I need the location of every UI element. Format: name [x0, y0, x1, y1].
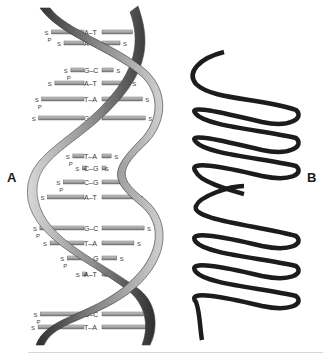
coil-upper: [193, 52, 299, 194]
coiled-ribbon-helix: [0, 0, 323, 355]
bottom-rule: [28, 352, 323, 353]
coil-lower: [194, 186, 298, 340]
figure: A B A–TSSPA–TSSG–CSSPA–TSST–ASSPG–CSST–A…: [0, 0, 323, 355]
